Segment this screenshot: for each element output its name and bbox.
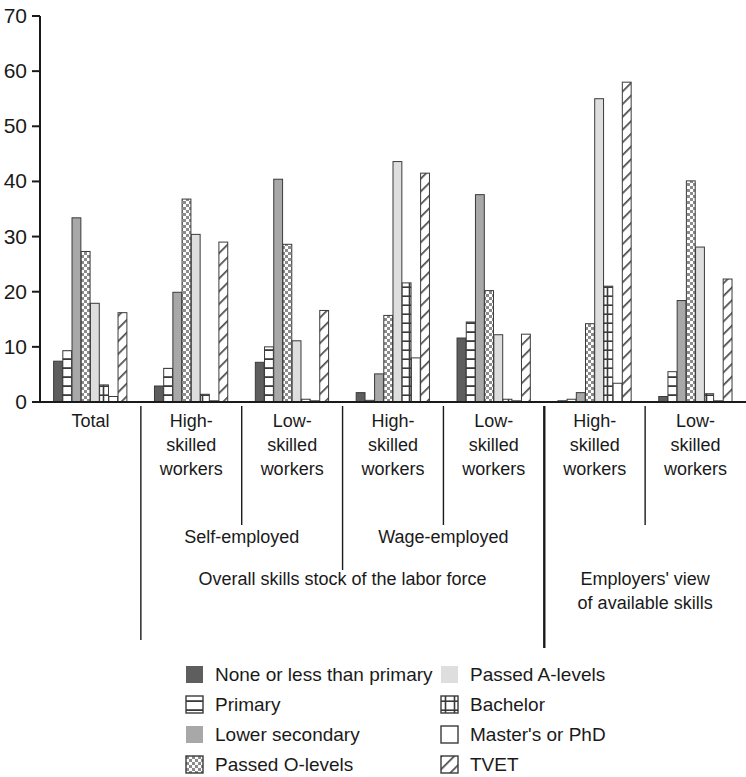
category-label: High- [573,411,616,431]
y-axis-tick-label: 30 [4,225,27,248]
group-label-tier2: Employers' view [580,569,710,589]
bar [255,362,264,402]
bar [375,374,384,402]
category-label: Low- [273,411,312,431]
bar [475,195,484,402]
bar [200,394,209,402]
bar [521,334,530,402]
bar [696,247,705,402]
bar [677,301,686,402]
bar [100,385,109,402]
bar [494,335,503,402]
legend-swatch [186,756,203,773]
category-label: skilled [671,435,721,455]
bar [182,199,191,402]
y-axis: 010203040506070 [4,4,40,413]
chart-canvas: 010203040506070 TotalHigh-skilledworkers… [0,0,746,777]
chart-legend: None or less than primaryPrimaryLower se… [186,664,606,775]
bar [668,372,677,402]
legend-swatch [186,726,203,743]
bar [72,218,81,402]
bar [81,251,90,402]
bar [118,313,127,402]
bar [292,341,301,402]
bar [164,368,173,402]
bar [173,292,182,402]
y-axis-tick-label: 70 [4,4,27,27]
legend-label: TVET [470,754,519,775]
y-axis-tick-label: 60 [4,59,27,82]
category-label: Low- [676,411,715,431]
category-label: workers [663,459,727,479]
y-axis-tick-label: 10 [4,335,27,358]
bar [595,99,604,402]
bar [485,291,494,402]
bar [265,347,274,402]
y-axis-tick-label: 0 [15,390,27,413]
bar [219,242,228,402]
bar [457,338,466,402]
bar [421,173,430,402]
bar [705,394,714,402]
bar [613,383,622,402]
bar [411,358,420,402]
bars-layer [54,82,732,402]
legend-swatch [441,696,458,713]
legend-label: Bachelor [470,694,546,715]
category-label: skilled [166,435,216,455]
legend-label: None or less than primary [215,664,433,685]
legend-label: Lower secondary [215,724,360,745]
bar [320,310,329,402]
bar [723,279,732,402]
bar [604,286,613,402]
bar [154,386,163,402]
bar [283,244,292,402]
category-label: workers [159,459,223,479]
group-label-tier2: Overall skills stock of the labor force [199,569,487,589]
legend-label: Master's or PhD [470,724,606,745]
category-label: High- [371,411,414,431]
bar [622,82,631,402]
bar [90,303,99,402]
legend-label: Passed A-levels [470,664,605,685]
bar [274,179,283,402]
y-axis-tick-label: 50 [4,114,27,137]
category-label: workers [360,459,424,479]
category-label: Total [71,411,109,431]
category-label: skilled [368,435,418,455]
bar [576,393,585,402]
legend-swatch [186,666,203,683]
legend-swatch [441,756,458,773]
category-label: Low- [474,411,513,431]
bar-chart: 010203040506070 TotalHigh-skilledworkers… [0,0,746,777]
category-label: workers [260,459,324,479]
bar [384,315,393,402]
bar [393,162,402,402]
group-label-tier1: Wage-employed [378,527,508,547]
category-label: skilled [469,435,519,455]
category-label: skilled [267,435,317,455]
group-labels: Self-employedWage-employedOverall skills… [184,527,712,613]
category-labels: TotalHigh-skilledworkersLow-skilledworke… [71,411,727,479]
bar [466,322,475,402]
bar [402,283,411,402]
group-label-tier1: Self-employed [184,527,299,547]
y-axis-tick-label: 40 [4,169,27,192]
bar [586,324,595,402]
legend-label: Passed O-levels [215,754,353,775]
bar [63,351,72,402]
y-axis-tick-label: 20 [4,280,27,303]
legend-swatch [441,726,458,743]
legend-swatch [186,696,203,713]
bar [356,393,365,402]
bar [686,181,695,402]
bar [54,361,63,402]
category-label: workers [461,459,525,479]
legend-label: Primary [215,694,281,715]
bar [191,234,200,402]
group-label-tier2: of available skills [578,593,713,613]
category-label: workers [562,459,626,479]
category-label: skilled [570,435,620,455]
category-label: High- [170,411,213,431]
legend-swatch [441,666,458,683]
